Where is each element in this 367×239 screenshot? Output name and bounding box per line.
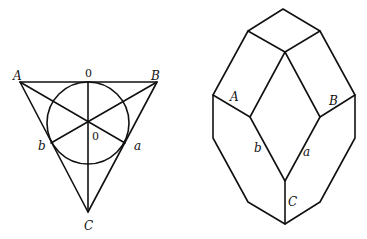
diagram-canvas: A 0 B 0 b a C A B b a C	[0, 0, 367, 239]
label-B-left: B	[150, 69, 160, 83]
top-face-lower-edges	[248, 31, 320, 52]
label-A-right: A	[229, 90, 239, 104]
label-a-right: a	[303, 145, 310, 159]
label-A-left: A	[12, 69, 22, 83]
polyhedron-outline	[213, 9, 355, 224]
label-C-right: C	[288, 195, 297, 209]
label-b-left: b	[38, 139, 46, 153]
label-b-right: b	[254, 141, 262, 155]
central-rhombus	[250, 52, 320, 181]
label-zero-center: 0	[92, 130, 99, 143]
label-B-right: B	[328, 94, 338, 108]
left-figure: A 0 B 0 b a C	[12, 67, 160, 233]
right-figure: A B b a C	[213, 9, 355, 224]
label-C-left: C	[84, 219, 93, 233]
label-a-left: a	[134, 139, 141, 153]
label-zero-top: 0	[85, 67, 92, 80]
